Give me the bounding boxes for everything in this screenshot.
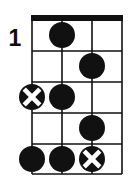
string-lines-group bbox=[32, 20, 122, 174]
filled-dot bbox=[49, 22, 75, 48]
fretboard-canvas bbox=[0, 0, 136, 182]
filled-dot bbox=[79, 115, 105, 141]
fretboard bbox=[0, 0, 136, 182]
marker-x-circle-s3-f5 bbox=[79, 146, 105, 172]
marker-filled-dot-s3-f4 bbox=[79, 115, 105, 141]
filled-dot bbox=[19, 146, 45, 172]
nut-bar-rect bbox=[31, 15, 123, 21]
filled-dot bbox=[79, 53, 105, 79]
marker-filled-dot-s2-f3 bbox=[49, 84, 75, 110]
filled-dot bbox=[49, 84, 75, 110]
marker-filled-dot-s2-f5 bbox=[49, 146, 75, 172]
fret-lines-group bbox=[32, 20, 122, 174]
marker-filled-dot-s2-f1 bbox=[49, 22, 75, 48]
nut-bar bbox=[31, 15, 123, 21]
filled-dot bbox=[49, 146, 75, 172]
marker-filled-dot-s1-f5 bbox=[19, 146, 45, 172]
marker-filled-dot-s3-f2 bbox=[79, 53, 105, 79]
chord-diagram: 1 bbox=[0, 0, 136, 182]
marker-x-circle-s1-f3 bbox=[19, 84, 45, 110]
